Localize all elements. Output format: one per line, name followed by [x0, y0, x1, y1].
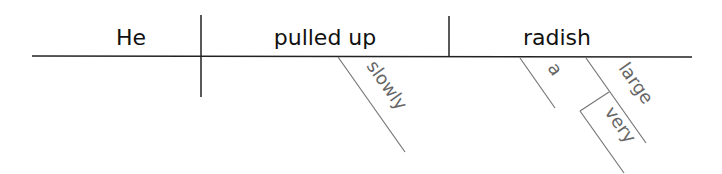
adjective-large: large	[615, 58, 658, 107]
adverb-slowly: slowly	[363, 56, 413, 114]
baseline	[32, 56, 692, 57]
adverb-very: very	[601, 102, 641, 147]
sentence-diagram: He pulled up radish slowly a large very	[0, 0, 722, 174]
object-word: radish	[523, 25, 591, 50]
adverb-connector-line	[580, 92, 609, 111]
subject-word: He	[116, 25, 146, 50]
verb-word: pulled up	[274, 25, 377, 50]
article-a: a	[544, 58, 568, 79]
